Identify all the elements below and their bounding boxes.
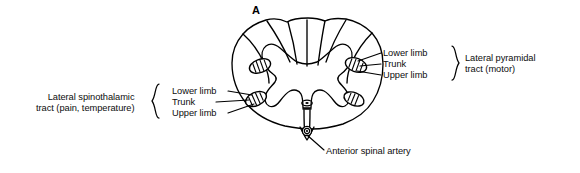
left-anterior-tract-group bbox=[247, 56, 272, 76]
anterior-spinal-artery-label: Anterior spinal artery bbox=[326, 146, 411, 157]
left-anterior-tract-oval bbox=[247, 56, 272, 76]
lateral-spinothalamic-tract-label: Lateral spinothalamic tract (pain, tempe… bbox=[36, 92, 134, 115]
spinal-cord-diagram-svg bbox=[0, 0, 580, 173]
anterior-spinal-artery-vessel bbox=[302, 126, 311, 135]
left-brace bbox=[152, 84, 159, 118]
right-brace bbox=[452, 46, 459, 80]
central-canal-lumen bbox=[305, 102, 308, 104]
left-upper-limb-label: Upper limb bbox=[172, 108, 216, 119]
leader-left-upper bbox=[228, 104, 254, 113]
leader-right-lower bbox=[358, 53, 381, 61]
spinal-cord-figure: A Lateral spinothalamic tract (pain, tem… bbox=[0, 0, 580, 173]
dorsal-septum-left-2 bbox=[267, 21, 290, 62]
lateral-spinothalamic-line2: tract (pain, temperature) bbox=[36, 103, 134, 114]
lateral-pyramidal-line2: tract (motor) bbox=[465, 64, 535, 75]
left-trunk-label: Trunk bbox=[172, 97, 195, 108]
lateral-spinothalamic-line1: Lateral spinothalamic bbox=[36, 92, 134, 103]
dorsal-septum-left-1 bbox=[288, 22, 297, 64]
lateral-pyramidal-tract-label: Lateral pyramidal tract (motor) bbox=[465, 53, 535, 76]
dorsal-septum-right-2 bbox=[326, 20, 346, 62]
panel-letter: A bbox=[252, 4, 260, 16]
lateral-pyramidal-line1: Lateral pyramidal bbox=[465, 53, 535, 64]
leader-anterior-spinal-artery bbox=[307, 135, 324, 150]
cord-outline-group bbox=[232, 18, 383, 140]
right-trunk-label: Trunk bbox=[383, 59, 406, 70]
left-lower-limb-label: Lower limb bbox=[172, 86, 216, 97]
right-lower-limb-label: Lower limb bbox=[383, 48, 427, 59]
right-upper-limb-label: Upper limb bbox=[383, 70, 427, 81]
